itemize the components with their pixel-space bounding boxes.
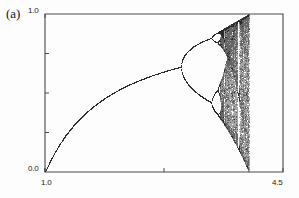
orbit-points-dense bbox=[45, 15, 249, 172]
bifurcation-figure: (a) 1.0 0.0 1.0 4.5 bbox=[0, 0, 299, 198]
orbit-point-cloud bbox=[45, 14, 250, 172]
bifurcation-plot bbox=[0, 0, 299, 198]
